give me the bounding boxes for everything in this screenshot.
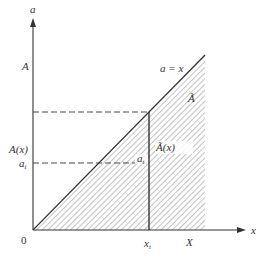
y-tick-A: A	[21, 60, 29, 72]
diagram-figure: a x 0 A A(x) at xt X a = x Ã Ã(x) at	[0, 0, 261, 259]
y-tick-A-x: A(x)	[8, 143, 28, 156]
y-axis-label: a	[30, 3, 36, 15]
y-tick-a-t: at	[19, 157, 28, 171]
x-tick-x-t: xt	[143, 237, 152, 251]
diagonal-label: a = x	[160, 62, 183, 74]
x-axis-label: x	[250, 224, 256, 236]
region-x-label: Ã(x)	[155, 141, 175, 154]
region-label: Ã	[187, 92, 195, 104]
x-tick-X: X	[185, 236, 194, 248]
x-axis-arrow-icon	[237, 227, 246, 233]
origin-label: 0	[21, 234, 27, 246]
y-axis-arrow-icon	[30, 18, 36, 27]
